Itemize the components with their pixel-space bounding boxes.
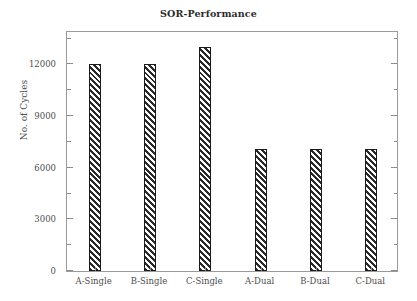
y-tick-label: 3000 [0, 214, 56, 224]
y-tick-major-right [391, 63, 397, 64]
x-tick [261, 267, 262, 271]
y-tick-minor [67, 141, 71, 142]
y-tick-minor [67, 89, 71, 90]
x-tick-label-c-dual: C-Dual [335, 276, 405, 286]
chart-figure: SOR-Performance No. of Cycles 0300060009… [0, 0, 417, 301]
y-tick-label: 6000 [0, 163, 56, 173]
x-tick [150, 267, 151, 271]
y-tick-label: 0 [0, 266, 56, 276]
y-tick-major [67, 115, 73, 116]
x-tick [95, 267, 96, 271]
y-tick-minor-right [394, 193, 398, 194]
y-tick-minor [67, 38, 71, 39]
bar-b-dual [310, 149, 322, 271]
y-tick-minor [67, 244, 71, 245]
y-tick-major-right [391, 115, 397, 116]
y-tick-major [67, 270, 73, 271]
y-tick-minor-right [394, 244, 398, 245]
bar-c-single [199, 47, 211, 271]
y-tick-minor-right [394, 38, 398, 39]
y-tick-label: 9000 [0, 111, 56, 121]
x-tick [205, 267, 206, 271]
y-tick-major [67, 167, 73, 168]
x-tick [316, 267, 317, 271]
bar-c-dual [365, 149, 377, 271]
y-tick-major-right [391, 218, 397, 219]
y-tick-major [67, 63, 73, 64]
y-tick-minor-right [394, 141, 398, 142]
bar-b-single [144, 64, 156, 271]
chart-title: SOR-Performance [0, 8, 417, 19]
bar-a-dual [255, 149, 267, 271]
plot-area: 030006000900012000 [66, 31, 398, 272]
x-tick [371, 267, 372, 271]
y-tick-minor-right [394, 89, 398, 90]
y-tick-minor [67, 193, 71, 194]
y-tick-major [67, 218, 73, 219]
y-tick-label: 12000 [0, 59, 56, 69]
y-tick-major-right [391, 167, 397, 168]
y-tick-major-right [391, 270, 397, 271]
bar-a-single [89, 64, 101, 271]
